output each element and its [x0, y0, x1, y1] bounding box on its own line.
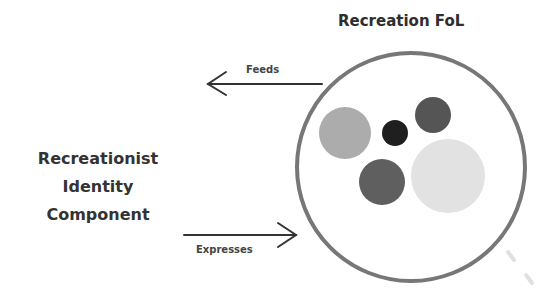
feeds-arrow [208, 72, 322, 95]
feeds-label: Feeds [246, 64, 279, 75]
identity-label-line-2: Identity [18, 173, 178, 201]
watermark-marks [508, 252, 532, 283]
recreation-fol-circle [297, 53, 525, 281]
inner-circle-dark-top [415, 97, 451, 133]
inner-circle-black [382, 120, 408, 146]
expresses-label: Expresses [196, 244, 253, 255]
inner-circle-light-gray [319, 107, 371, 159]
identity-label-line-3: Component [18, 201, 178, 229]
identity-label-line-1: Recreationist [18, 145, 178, 173]
identity-component-label: Recreationist Identity Component [18, 145, 178, 229]
diagram-title: Recreation FoL [338, 12, 464, 30]
inner-circle-dark-left [359, 159, 405, 205]
inner-circle-very-light [411, 139, 485, 213]
